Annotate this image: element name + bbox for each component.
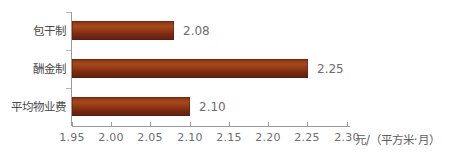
x-tick-label: 2.00 <box>98 131 123 144</box>
category-label: 酬金制 <box>33 64 66 76</box>
x-tick-label: 2.05 <box>137 131 162 144</box>
bar-chart: 1.95 2.00 2.05 2.10 2.15 2.20 2.25 2.30 … <box>0 0 460 158</box>
value-label: 2.25 <box>317 63 344 75</box>
x-axis-tick <box>111 122 112 127</box>
x-axis-tick <box>150 122 151 127</box>
y-axis-tick <box>66 88 71 89</box>
x-tick-label: 2.25 <box>294 131 319 144</box>
x-axis-tick <box>229 122 230 127</box>
x-tick-label: 2.10 <box>177 131 202 144</box>
x-axis-tick <box>190 122 191 127</box>
x-tick-label: 2.20 <box>255 131 280 144</box>
x-axis-tick <box>307 122 308 127</box>
bar <box>72 21 174 40</box>
x-axis-tick <box>72 122 73 127</box>
category-label: 平均物业费 <box>11 102 66 114</box>
x-axis-tick <box>347 122 348 127</box>
bar <box>72 97 190 116</box>
y-axis-tick <box>66 50 71 51</box>
x-axis-line <box>72 126 350 127</box>
x-axis-unit-label: 元/（平方米·月） <box>355 131 440 147</box>
x-axis-tick <box>268 122 269 127</box>
bar <box>72 59 308 78</box>
category-label: 包干制 <box>33 26 66 38</box>
x-tick-label: 2.15 <box>216 131 241 144</box>
value-label: 2.08 <box>183 25 210 37</box>
y-axis-tick <box>66 12 71 13</box>
value-label: 2.10 <box>199 101 226 113</box>
x-tick-label: 1.95 <box>59 131 84 144</box>
